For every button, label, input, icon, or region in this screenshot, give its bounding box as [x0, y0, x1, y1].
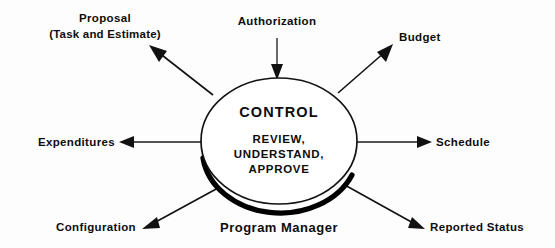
node-label-expenditures: Expenditures	[38, 136, 115, 148]
arrow-head-proposal	[149, 45, 167, 62]
node-label-configuration: Configuration	[56, 221, 136, 233]
control-diagram: CONTROL REVIEW, UNDERSTAND, APPROVE Prog…	[0, 0, 555, 248]
connector-proposal-line	[158, 52, 213, 95]
control-ellipse-group	[201, 78, 357, 213]
diagram-canvas: CONTROL REVIEW, UNDERSTAND, APPROVE Prog…	[0, 0, 555, 248]
connector-budget	[338, 44, 393, 93]
connector-expenditures	[119, 136, 201, 148]
center-subtitle-line-3: APPROVE	[248, 163, 309, 175]
arrow-head-reported-status	[408, 217, 425, 229]
arrow-head-budget	[377, 44, 393, 62]
arrow-head-schedule	[417, 136, 432, 148]
connector-configuration-line	[152, 188, 218, 224]
node-label-authorization: Authorization	[238, 15, 317, 27]
center-subtitle-line-2: UNDERSTAND,	[234, 148, 325, 160]
arrow-head-configuration	[142, 217, 160, 229]
node-label-schedule: Schedule	[436, 136, 490, 148]
connector-reported-status-line	[343, 184, 415, 224]
program-manager-label: Program Manager	[220, 220, 338, 235]
arrow-head-expenditures	[119, 136, 134, 148]
center-title: CONTROL	[239, 104, 318, 120]
center-subtitle-line-1: REVIEW,	[253, 133, 306, 145]
node-label-proposal-detail: (Task and Estimate)	[49, 28, 161, 40]
node-label-budget: Budget	[399, 31, 441, 43]
connector-proposal	[149, 45, 213, 95]
connector-configuration	[142, 188, 218, 229]
node-label-proposal: Proposal	[79, 12, 131, 24]
connector-authorization	[271, 38, 283, 80]
connector-schedule	[357, 136, 432, 148]
connector-reported-status	[343, 184, 425, 229]
node-label-reported-status: Reported Status	[430, 221, 524, 233]
connector-budget-line	[338, 52, 385, 93]
